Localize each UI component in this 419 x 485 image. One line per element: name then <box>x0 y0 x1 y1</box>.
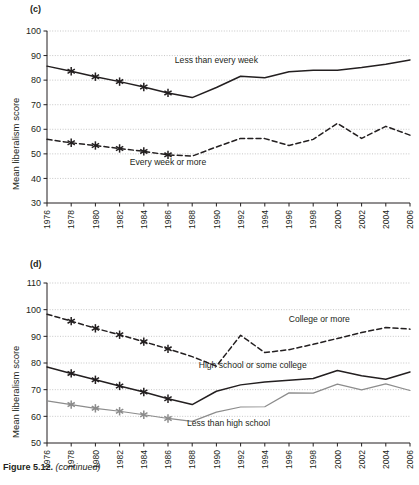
y-tick-label: 110 <box>27 278 41 288</box>
series-line <box>47 123 410 156</box>
series-label-2: Less than high school <box>187 418 270 428</box>
panel-d-plot: 5060708090100110197619781980198219841986… <box>0 248 419 453</box>
y-tick-label: 90 <box>31 51 41 61</box>
x-tick-label: 1986 <box>163 450 173 469</box>
y-tick-label: 70 <box>31 100 41 110</box>
x-tick-label: 1998 <box>308 210 318 229</box>
y-tick-label: 50 <box>31 149 41 159</box>
x-tick-label: 1976 <box>42 210 52 229</box>
x-tick-label: 1988 <box>187 450 197 469</box>
x-tick-label: 1980 <box>91 210 101 229</box>
series-line <box>47 314 410 366</box>
x-tick-label: 2000 <box>333 210 343 229</box>
y-tick-label: 90 <box>31 332 41 342</box>
x-tick-label: 1982 <box>115 210 125 229</box>
x-tick-label: 1988 <box>187 210 197 229</box>
series-label-1: High school or some college <box>199 360 307 370</box>
x-tick-label: 1994 <box>260 210 270 229</box>
figure-caption: Figure 5.12. (continued) <box>3 462 101 472</box>
series-line <box>47 367 410 405</box>
series-label-1: Every week or more <box>130 157 207 167</box>
series-line <box>47 60 410 98</box>
x-tick-label: 1984 <box>139 450 149 469</box>
y-tick-label: 40 <box>31 174 41 184</box>
y-tick-label: 80 <box>31 75 41 85</box>
x-tick-label: 1998 <box>308 450 318 469</box>
x-tick-label: 1984 <box>139 210 149 229</box>
y-tick-label: 80 <box>31 358 41 368</box>
x-tick-label: 1996 <box>284 210 294 229</box>
x-tick-label: 2004 <box>381 450 391 469</box>
series-label-0: College or more <box>289 314 350 324</box>
x-tick-label: 2002 <box>357 450 367 469</box>
y-tick-label: 70 <box>31 385 41 395</box>
series-label-0: Less than every week <box>175 55 259 65</box>
y-tick-label: 100 <box>26 26 41 36</box>
x-tick-label: 1996 <box>284 450 294 469</box>
y-tick-label: 60 <box>31 124 41 134</box>
x-tick-label: 1994 <box>260 450 270 469</box>
x-tick-label: 1990 <box>212 210 222 229</box>
panel-c-plot: 3040506070809010019761978198019821984198… <box>0 0 419 248</box>
y-tick-label: 50 <box>31 438 41 448</box>
x-tick-label: 2004 <box>381 210 391 229</box>
panel-c: (c) Mean liberalism score 30405060708090… <box>0 0 419 248</box>
figure-caption-bold: Figure 5.12. <box>3 462 53 472</box>
x-tick-label: 1992 <box>236 450 246 469</box>
figure-caption-rest: (continued) <box>53 462 101 472</box>
x-tick-label: 1982 <box>115 450 125 469</box>
x-tick-label: 1992 <box>236 210 246 229</box>
x-tick-label: 1986 <box>163 210 173 229</box>
x-tick-label: 1978 <box>66 210 76 229</box>
y-tick-label: 60 <box>31 412 41 422</box>
series-line <box>47 384 410 422</box>
x-tick-label: 1990 <box>212 450 222 469</box>
y-tick-label: 30 <box>31 198 41 208</box>
panel-d: (d) Mean liberalism score 50607080901001… <box>0 248 419 453</box>
x-tick-label: 2000 <box>333 450 343 469</box>
x-tick-label: 2006 <box>405 450 415 469</box>
x-tick-label: 2006 <box>405 210 415 229</box>
y-tick-label: 100 <box>26 305 41 315</box>
x-tick-label: 2002 <box>357 210 367 229</box>
